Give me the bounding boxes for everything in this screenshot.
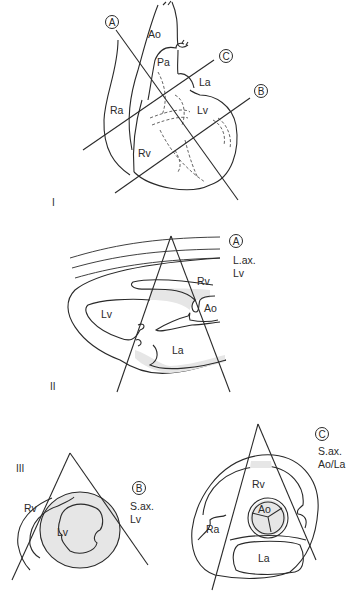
plane-b-marker: B bbox=[255, 85, 268, 98]
panel-ii-label-la: La bbox=[172, 344, 184, 356]
panel-ii-plane-marker: A bbox=[230, 235, 243, 248]
svg-text:B: B bbox=[136, 483, 143, 494]
panel-iii-right-label-rv: Rv bbox=[252, 478, 266, 490]
panel-iii-numeral: III bbox=[16, 463, 24, 474]
panel-iii-left-view-target: Lv bbox=[130, 513, 142, 525]
panel-ii-label-ao: Ao bbox=[204, 302, 217, 314]
svg-text:B: B bbox=[258, 86, 265, 97]
panel-ii-label-lv: Lv bbox=[101, 308, 113, 320]
panel-iii-left-view-name: S.ax. bbox=[130, 500, 154, 512]
panel-iii-left-label-rv: Rv bbox=[24, 502, 38, 514]
label-pulmonary-artery: Pa bbox=[157, 56, 170, 68]
panel-iii-right-label-ra: Ra bbox=[206, 523, 220, 535]
panel-iii-plane-c-marker: C bbox=[316, 428, 329, 441]
panel-iii-short-axis-ao-la bbox=[192, 455, 318, 579]
plane-b-line bbox=[115, 98, 250, 193]
label-aorta: Ao bbox=[148, 28, 161, 40]
panel-ii-label-rv: Rv bbox=[197, 275, 211, 287]
panel-iii-right-label-la: La bbox=[258, 552, 270, 564]
panel-iii-left-label-lv: Lv bbox=[57, 526, 69, 538]
panel-iii-right-label-ao: Ao bbox=[258, 503, 271, 515]
plane-a-marker: A bbox=[106, 16, 119, 29]
svg-text:C: C bbox=[318, 429, 325, 440]
panel-i-heart-anterior-view bbox=[104, 1, 237, 190]
svg-text:A: A bbox=[109, 17, 116, 28]
svg-text:A: A bbox=[233, 236, 240, 247]
panel-iii-right-view-target: Ao/La bbox=[318, 458, 346, 470]
svg-text:C: C bbox=[222, 51, 229, 62]
label-right-ventricle: Rv bbox=[138, 147, 152, 159]
echocardiography-planes-diagram: A C B Ao Pa La Lv Ra Rv I bbox=[0, 0, 359, 598]
panel-ii-view-name: L.ax. bbox=[233, 254, 256, 266]
plane-c-marker: C bbox=[220, 50, 233, 63]
label-left-ventricle: Lv bbox=[197, 104, 209, 116]
panel-ii-numeral: II bbox=[50, 381, 56, 392]
panel-i-numeral: I bbox=[52, 197, 55, 208]
label-left-atrium: La bbox=[199, 76, 211, 88]
panel-iii-plane-b-marker: B bbox=[133, 482, 146, 495]
label-right-atrium: Ra bbox=[110, 104, 124, 116]
panel-iii-right-view-name: S.ax. bbox=[318, 445, 342, 457]
panel-ii-view-target: Lv bbox=[233, 267, 245, 279]
